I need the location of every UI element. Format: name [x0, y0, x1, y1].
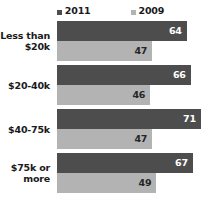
bar-2011: 71	[57, 109, 201, 129]
legend-label-2009: 2009	[139, 6, 165, 16]
bar-value: 67	[175, 158, 188, 168]
bar-pair: 64 47	[57, 21, 207, 61]
bar-value: 47	[134, 134, 147, 144]
category-label: Less than $20k	[0, 21, 53, 61]
bar-row: 47	[57, 129, 207, 149]
bar-2009: 47	[57, 129, 152, 149]
bar-row: 71	[57, 109, 207, 129]
legend-label-2011: 2011	[65, 6, 91, 16]
bar-2011: 64	[57, 21, 187, 41]
bar-row: 47	[57, 41, 207, 61]
bar-2009: 49	[57, 173, 156, 193]
bar-2011: 66	[57, 65, 191, 85]
category-label: $75k or more	[0, 153, 53, 193]
plot-area: Less than $20k 64 47 $20-40k	[0, 21, 207, 213]
bar-group: $75k or more 67 49	[0, 153, 207, 193]
bar-group: Less than $20k 64 47	[0, 21, 207, 61]
category-label: $20-40k	[0, 65, 53, 105]
bar-value: 47	[134, 46, 147, 56]
category-label-line: $20-40k	[8, 80, 50, 91]
bar-value: 49	[138, 178, 151, 188]
bar-pair: 66 46	[57, 65, 207, 105]
bar-pair: 67 49	[57, 153, 207, 193]
bar-chart: 2011 2009 Less than $20k 64 47	[0, 0, 207, 213]
category-label: $40-75k	[0, 109, 53, 149]
bar-group: $40-75k 71 47	[0, 109, 207, 149]
bar-value: 66	[173, 70, 186, 80]
bar-row: 67	[57, 153, 207, 173]
category-label-line: $40-75k	[8, 124, 50, 135]
bar-row: 46	[57, 85, 207, 105]
bar-group: $20-40k 66 46	[0, 65, 207, 105]
bar-2009: 46	[57, 85, 150, 105]
bar-row: 64	[57, 21, 207, 41]
category-label-line: $20k	[25, 41, 50, 52]
bar-pair: 71 47	[57, 109, 207, 149]
category-label-line: more	[23, 173, 50, 184]
bar-2011: 67	[57, 153, 193, 173]
chart-legend: 2011 2009	[0, 3, 207, 19]
bar-2009: 47	[57, 41, 152, 61]
category-label-line: $75k or	[11, 162, 50, 173]
bar-value: 71	[183, 114, 196, 124]
legend-swatch-2011	[57, 10, 62, 15]
bar-row: 49	[57, 173, 207, 193]
category-label-line: Less than	[0, 30, 50, 41]
bar-row: 66	[57, 65, 207, 85]
bar-value: 46	[132, 90, 145, 100]
bar-value: 64	[169, 26, 182, 36]
legend-swatch-2009	[131, 10, 136, 15]
legend-item-2011: 2011	[57, 6, 91, 16]
legend-item-2009: 2009	[131, 6, 165, 16]
